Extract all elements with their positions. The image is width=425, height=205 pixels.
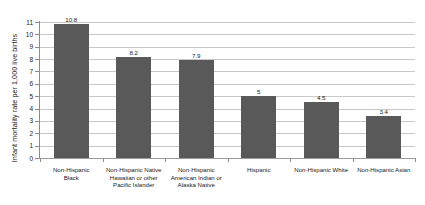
y-tick-label-8: 8 (19, 56, 33, 63)
category-label-line: Non-Hispanic (53, 166, 90, 173)
category-label-line: Non-Hispanic White (294, 166, 348, 173)
plot-area (40, 22, 415, 158)
y-tick-label-6: 6 (19, 80, 33, 87)
gridline-9 (40, 47, 415, 48)
infant-mortality-bar-chart: Infant mortality rate per 1,000 live bir… (0, 0, 425, 205)
category-label-line: Hispanic (247, 166, 270, 173)
bar-value-label: 8.2 (114, 49, 154, 56)
y-tick-label-10: 10 (19, 31, 33, 38)
x-tick-mark (165, 158, 166, 162)
y-tick-label-4: 4 (19, 105, 33, 112)
y-tick-label-0: 0 (19, 155, 33, 162)
y-tick-label-2: 2 (19, 130, 33, 137)
x-axis-category-label: Non-Hispanic NativeHawaiian or otherPaci… (103, 166, 166, 189)
x-tick-mark (40, 158, 41, 162)
x-axis-category-label: Non-Hispanic Asian (353, 166, 416, 174)
gridline-10 (40, 34, 415, 35)
category-label-line: Alaska Native (178, 181, 215, 188)
bar-value-label: 5 (239, 88, 279, 95)
y-tick-label-3: 3 (19, 117, 33, 124)
bar-value-label: 4.5 (301, 94, 341, 101)
x-axis-category-label: Non-Hispanic White (290, 166, 353, 174)
x-tick-mark (103, 158, 104, 162)
gridline-7 (40, 71, 415, 72)
bar-value-label: 10.8 (51, 16, 91, 23)
bar (179, 60, 214, 158)
x-tick-mark (290, 158, 291, 162)
y-tick-label-1: 1 (19, 142, 33, 149)
x-axis-category-label: Hispanic (228, 166, 291, 174)
bar-value-label: 7.9 (176, 52, 216, 59)
x-axis-category-label: Non-HispanicBlack (40, 166, 103, 181)
category-label-line: American Indian or (171, 174, 222, 181)
gridline-1 (40, 146, 415, 147)
gridline-6 (40, 84, 415, 85)
bar (366, 116, 401, 158)
category-label-line: Non-Hispanic Native (106, 166, 162, 173)
category-label-line: Non-Hispanic (178, 166, 215, 173)
category-label-line: Hawaiian or other (110, 174, 158, 181)
category-label-line: Black (64, 174, 79, 181)
y-tick-label-5: 5 (19, 93, 33, 100)
x-axis-category-label: Non-HispanicAmerican Indian orAlaska Nat… (165, 166, 228, 189)
gridline-4 (40, 109, 415, 110)
gridline-3 (40, 121, 415, 122)
gridline-11 (40, 22, 415, 23)
bar-value-label: 3.4 (364, 108, 404, 115)
x-tick-mark (228, 158, 229, 162)
y-tick-label-11: 11 (19, 19, 33, 26)
gridline-2 (40, 133, 415, 134)
category-label-line: Pacific Islander (113, 181, 154, 188)
y-tick-label-9: 9 (19, 43, 33, 50)
x-tick-mark (353, 158, 354, 162)
category-label-line: Non-Hispanic Asian (357, 166, 410, 173)
x-tick-mark (415, 158, 416, 162)
bar (241, 96, 276, 158)
gridline-5 (40, 96, 415, 97)
gridline-8 (40, 59, 415, 60)
bar (54, 24, 89, 158)
y-tick-label-7: 7 (19, 68, 33, 75)
bar (116, 57, 151, 158)
bar (304, 102, 339, 158)
